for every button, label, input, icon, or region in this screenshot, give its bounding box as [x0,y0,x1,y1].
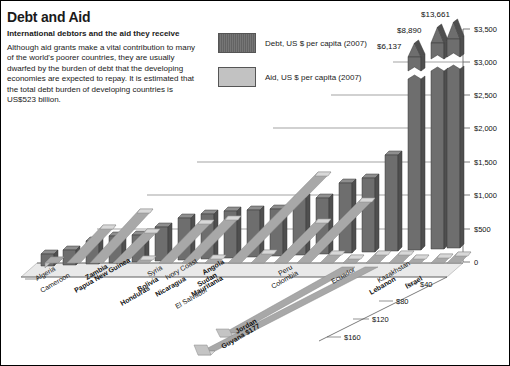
aid-bar-peru [343,255,364,263]
axis-tick-0: 0 [474,258,478,267]
axis-tick-3500: $3,500 [474,25,497,34]
bar-lebanon [431,24,448,249]
axis-tick-2000: $2,000 [474,124,497,133]
bar-colombia [362,174,379,252]
category-label-honduras: Honduras [119,284,151,306]
axis-tick-500: $500 [474,225,491,234]
value-label-lebanon: $8,890 [397,26,422,35]
category-label-el-salvador: El Salvador [174,286,209,310]
debt-aid-3d-bar-chart: $3,500 $3,000 $2,500 $2,000 $1,500 $1,00… [1,1,510,366]
bar-kazakhstan [408,40,425,250]
axis-tick-3000: $3,000 [474,58,497,67]
axis-tick-1000: $1,000 [474,191,497,200]
aid-tick-120: $120 [372,315,389,324]
value-label-israel: $13,661 [421,10,450,19]
debt-value-axis: $3,500 $3,000 $2,500 $2,000 $1,500 $1,00… [463,25,497,267]
bar-ecuador [385,151,402,251]
aid-tick-160: $160 [344,333,361,342]
bar-israel [447,19,464,248]
aid-tick-80: $80 [396,297,409,306]
chart-page: Debt and Aid International debtors and t… [0,0,510,366]
aid-bar-colombia [366,251,391,263]
aid-bar-kazakhstan [408,255,429,263]
bar-nicaragua [224,207,241,258]
axis-tick-2500: $2,500 [474,91,497,100]
axis-tick-1500: $1,500 [474,158,497,167]
value-label-kazakhstan: $6,137 [377,42,402,51]
